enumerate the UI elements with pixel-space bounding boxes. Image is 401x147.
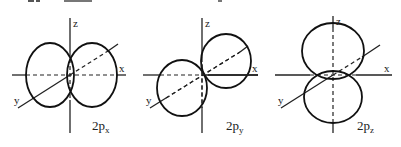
panel-2py: z x y 2py — [143, 17, 258, 135]
x-axis-label: x — [252, 62, 258, 74]
panel-2px: z x y 2px — [12, 17, 126, 135]
cropped-text-fragment — [36, 0, 40, 2]
y-axis-label: y — [278, 94, 284, 106]
z-axis-label: z — [336, 15, 341, 27]
p-orbitals-diagram: z x y 2px z x y 2py — [0, 0, 401, 147]
z-axis-label: z — [73, 17, 78, 29]
cropped-text-fragment — [28, 0, 34, 2]
cropped-text-fragment — [64, 0, 92, 2]
y-axis-label: y — [14, 94, 20, 106]
cropped-text-fragment — [218, 0, 222, 2]
orbital-label-2py: 2py — [226, 118, 244, 135]
orbital-lobe-negative-y — [157, 60, 207, 116]
x-axis-label: x — [384, 62, 390, 74]
orbital-label-2px: 2px — [92, 118, 110, 135]
y-axis-hidden — [70, 51, 108, 75]
orbital-label-2pz: 2pz — [357, 118, 374, 135]
y-axis — [108, 44, 118, 51]
y-axis-label: y — [146, 94, 152, 106]
panel-2pz: z x y 2pz — [275, 15, 392, 135]
y-axis — [281, 75, 333, 108]
x-axis-label: x — [119, 62, 125, 74]
z-axis-label: z — [205, 17, 210, 29]
y-axis-hidden — [333, 57, 362, 75]
